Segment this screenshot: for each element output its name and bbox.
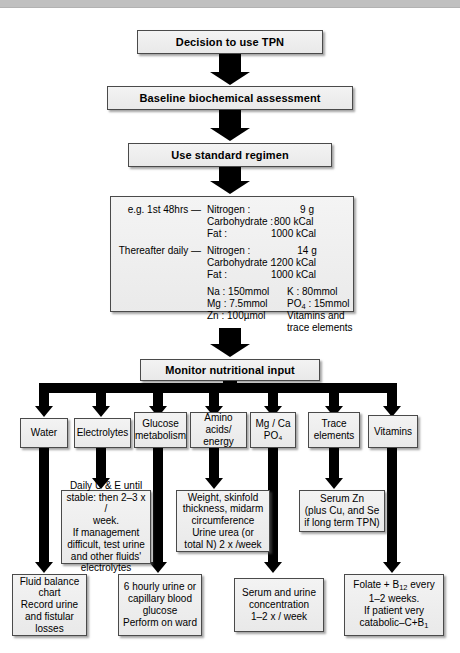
connector-3-stem	[219, 167, 241, 181]
regimen-first-row-2-name: Fat :	[207, 228, 227, 239]
branch-arrow-electrolytes	[92, 406, 110, 417]
node-decision-to-use-tpn[interactable]: Decision to use TPN	[137, 30, 323, 54]
regimen-first-row-1-name: Carbohydrate :	[207, 216, 273, 227]
panel-standard-regimen: e.g. 1st 48hrs — Nitrogen : 9 g Carbohyd…	[110, 196, 354, 312]
branch-drop-glucose	[153, 383, 163, 406]
node-decision-to-use-tpn-label: Decision to use TPN	[138, 36, 322, 49]
branch-drop-electrolytes	[96, 383, 106, 406]
node-monitor-nutritional-input[interactable]: Monitor nutritional input	[140, 359, 320, 381]
node-bottom-glucose[interactable]: 6 hourly urine or capillary blood glucos…	[118, 574, 202, 636]
stem-water	[39, 448, 49, 562]
regimen-first-row-0-value: 9 g	[271, 204, 343, 215]
node-category-amino-acids-energy-label: Amino acids/ energy	[191, 412, 246, 447]
node-baseline-biochemical-assessment-label: Baseline biochemical assessment	[108, 92, 352, 105]
node-use-standard-regimen[interactable]: Use standard regimen	[128, 143, 332, 167]
node-bottom-vitamins-line2: 1–2 weeks.	[369, 593, 420, 604]
regimen-thereafter-row-2-value: 1000 kCal	[271, 269, 316, 280]
node-category-water-label: Water	[21, 427, 67, 439]
node-category-mg-ca-po4[interactable]: Mg / Ca PO₄	[250, 412, 296, 448]
node-bottom-mg-ca-text: Serum and urine concentration 1–2 x / we…	[235, 587, 323, 622]
node-detail-trace-elements-text: Serum Zn (plus Cu, and Se if long term T…	[300, 493, 384, 528]
stem-amino-acids	[209, 448, 219, 478]
regimen-thereafter-row-0-name: Nitrogen :	[207, 245, 250, 256]
node-category-glucose-metabolism-label: Glucose metabolism	[133, 418, 188, 442]
regimen-first-label: e.g. 1st 48hrs —	[117, 204, 201, 215]
node-bottom-vitamins-line4-sub: 1	[424, 621, 428, 630]
node-category-vitamins[interactable]: Vitamins	[368, 415, 418, 448]
branch-drop-trace	[329, 383, 339, 406]
branch-drop-vitamins	[387, 383, 397, 406]
node-bottom-glucose-text: 6 hourly urine or capillary blood glucos…	[119, 581, 201, 628]
connector-2-stem	[219, 110, 241, 128]
regimen-vitamins-line1: Vitamins and	[287, 310, 345, 321]
stem-trace	[329, 448, 339, 478]
node-detail-trace-elements[interactable]: Serum Zn (plus Cu, and Se if long term T…	[299, 490, 385, 532]
branch-drop-mg-ca	[268, 383, 278, 406]
regimen-first-row-2-value: 1000 kCal	[271, 228, 316, 239]
node-bottom-vitamins[interactable]: Folate + B12 every 1–2 weeks. If patient…	[344, 574, 444, 636]
node-category-glucose-metabolism[interactable]: Glucose metabolism	[134, 412, 187, 448]
node-bottom-vitamins-line1-post: every	[407, 579, 434, 590]
regimen-thereafter-row-1-name: Carbohydrate :	[207, 257, 273, 268]
node-bottom-vitamins-line1: Folate + B12 every	[353, 579, 434, 590]
node-bottom-water-text: Fluid balance chart Record urine and fis…	[13, 576, 86, 635]
stem-electrolytes	[96, 448, 106, 478]
branch-arrow-water	[35, 406, 53, 417]
node-detail-electrolytes-text: Daily U & E until stable: then 2–3 x / w…	[62, 480, 150, 574]
node-category-trace-elements[interactable]: Trace elements	[308, 412, 360, 448]
connector-4-arrow	[210, 344, 250, 357]
connector-1-arrow	[210, 72, 250, 85]
regimen-vitamins-line2: trace elements	[287, 322, 353, 333]
stem-arrow-trace	[325, 478, 343, 489]
connector-4-stem	[219, 328, 241, 344]
node-detail-amino-acids[interactable]: Weight, skinfold thickness, midarm circu…	[176, 490, 270, 552]
connector-1-stem	[219, 54, 241, 72]
node-category-amino-acids-energy[interactable]: Amino acids/ energy	[190, 412, 247, 448]
stem-arrow-vitamins	[383, 562, 401, 573]
regimen-thereafter-label: Thereafter daily —	[113, 245, 201, 256]
node-detail-electrolytes[interactable]: Daily U & E until stable: then 2–3 x / w…	[61, 490, 151, 564]
branch-drop-water	[39, 383, 49, 406]
node-category-electrolytes-label: Electrolytes	[75, 427, 131, 439]
node-bottom-mg-ca[interactable]: Serum and urine concentration 1–2 x / we…	[234, 578, 324, 632]
node-use-standard-regimen-label: Use standard regimen	[129, 149, 331, 162]
stem-glucose	[153, 448, 163, 562]
node-bottom-vitamins-line4: catabolic–C+B1	[360, 617, 429, 628]
branch-drop-amino-acids	[209, 383, 219, 406]
regimen-first-row-0-name: Nitrogen :	[207, 204, 250, 215]
flowchart-page: Decision to use TPN Baseline biochemical…	[0, 0, 460, 653]
node-category-electrolytes[interactable]: Electrolytes	[74, 418, 131, 448]
node-bottom-vitamins-line3: If patient very	[364, 605, 424, 616]
regimen-mineral-na: Na : 150mmol	[207, 286, 269, 297]
node-detail-amino-acids-text: Weight, skinfold thickness, midarm circu…	[177, 492, 269, 551]
node-category-water[interactable]: Water	[20, 418, 68, 448]
regimen-first-row-1-value: 800 kCal	[274, 216, 313, 227]
regimen-mineral-po4-pre: PO	[287, 298, 301, 309]
node-category-trace-elements-label: Trace elements	[309, 418, 359, 442]
stem-arrow-glucose	[149, 562, 167, 573]
stem-vitamins	[387, 448, 397, 562]
stem-arrow-mg-ca	[264, 562, 282, 573]
regimen-mineral-po4-post: : 15mmol	[306, 298, 350, 309]
node-category-vitamins-label: Vitamins	[369, 426, 417, 438]
regimen-mineral-k: K : 80mmol	[287, 286, 338, 297]
connector-3-arrow	[210, 181, 250, 194]
stem-arrow-amino-acids	[205, 478, 223, 489]
connector-2-arrow	[210, 128, 250, 141]
regimen-thereafter-row-0-value: 14 g	[271, 245, 343, 256]
regimen-thereafter-row-1-value: 1200 kCal	[271, 257, 316, 268]
node-category-mg-ca-po4-label: Mg / Ca PO₄	[251, 418, 295, 442]
node-bottom-vitamins-line4-pre: catabolic–C+B	[360, 617, 425, 628]
node-bottom-vitamins-line1-pre: Folate + B	[353, 579, 399, 590]
node-monitor-nutritional-input-label: Monitor nutritional input	[141, 364, 319, 377]
regimen-thereafter-row-2-name: Fat :	[207, 269, 227, 280]
regimen-mineral-mg: Mg : 7.5mmol	[207, 298, 268, 309]
node-bottom-vitamins-text: Folate + B12 every 1–2 weeks. If patient…	[345, 579, 443, 630]
top-gray-bar	[0, 0, 460, 8]
node-bottom-water[interactable]: Fluid balance chart Record urine and fis…	[12, 574, 87, 636]
regimen-mineral-zn: Zn : 100µmol	[207, 310, 266, 321]
node-baseline-biochemical-assessment[interactable]: Baseline biochemical assessment	[107, 86, 353, 110]
stem-arrow-water	[35, 562, 53, 573]
